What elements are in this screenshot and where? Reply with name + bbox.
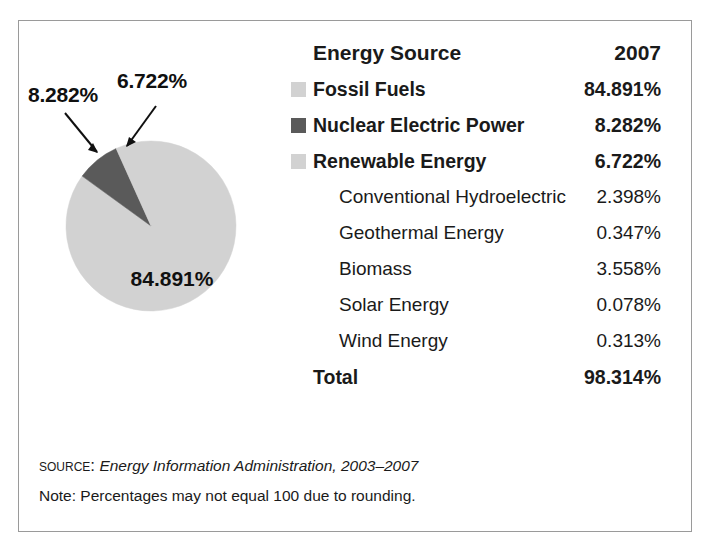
source-text: Energy Information Administration, 2003–…	[99, 457, 418, 474]
row-value: 8.282%	[595, 107, 661, 143]
footnotes: Source: Energy Information Administratio…	[39, 451, 659, 511]
row-label: Solar Energy	[339, 287, 449, 323]
legend-swatch-nuclear	[291, 118, 306, 133]
table-row-renewable-energy: Renewable Energy 6.722%	[291, 143, 661, 179]
row-label: Geothermal Energy	[339, 215, 504, 251]
row-value: 0.347%	[597, 215, 661, 251]
legend-swatch-fossil-fuels	[291, 82, 306, 97]
table-row-conventional-hydroelectric: Conventional Hydroelectric 2.398%	[291, 179, 661, 215]
row-value: 98.314%	[584, 359, 661, 395]
pie-callout-nuclear: 8.282%	[28, 83, 98, 107]
column-header-year: 2007	[614, 35, 661, 71]
energy-source-table: Energy Source 2007 Fossil Fuels 84.891% …	[291, 35, 661, 395]
note-line: Note: Percentages may not equal 100 due …	[39, 481, 659, 511]
source-label: Source:	[39, 456, 95, 475]
row-label: Fossil Fuels	[313, 71, 426, 107]
table-row-fossil-fuels: Fossil Fuels 84.891%	[291, 71, 661, 107]
row-value: 6.722%	[595, 143, 661, 179]
row-label: Biomass	[339, 251, 412, 287]
row-label: Total	[313, 359, 358, 395]
table-row-solar-energy: Solar Energy 0.078%	[291, 287, 661, 323]
row-value: 84.891%	[584, 71, 661, 107]
figure-frame: 8.282% 6.722% 84.891% Energy Source 2007…	[18, 20, 692, 532]
table-row-nuclear-electric-power: Nuclear Electric Power 8.282%	[291, 107, 661, 143]
pie-chart: 8.282% 6.722% 84.891%	[19, 21, 309, 421]
source-line: Source: Energy Information Administratio…	[39, 451, 659, 481]
table-row-wind-energy: Wind Energy 0.313%	[291, 323, 661, 359]
row-label: Wind Energy	[339, 323, 448, 359]
table-row-biomass: Biomass 3.558%	[291, 251, 661, 287]
leader-arrow-nuclear	[88, 143, 98, 153]
row-label: Renewable Energy	[313, 143, 486, 179]
row-value: 0.078%	[597, 287, 661, 323]
pie-label-fossil-fuels: 84.891%	[102, 267, 242, 291]
row-value: 3.558%	[597, 251, 661, 287]
row-value: 2.398%	[597, 179, 661, 215]
row-value: 0.313%	[597, 323, 661, 359]
row-label: Conventional Hydroelectric	[339, 179, 566, 215]
table-row-geothermal-energy: Geothermal Energy 0.347%	[291, 215, 661, 251]
pie-callout-renewable: 6.722%	[117, 69, 187, 93]
column-header-energy-source: Energy Source	[313, 35, 461, 71]
legend-swatch-renewable	[291, 154, 306, 169]
row-label: Nuclear Electric Power	[313, 107, 524, 143]
table-header-row: Energy Source 2007	[291, 35, 661, 71]
table-row-total: Total 98.314%	[291, 359, 661, 395]
